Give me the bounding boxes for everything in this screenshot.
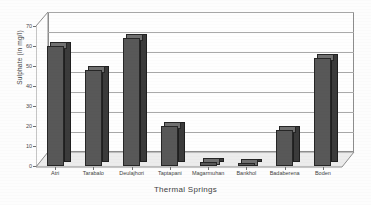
bar-front-face: [161, 126, 178, 166]
x-tick-mark: [132, 167, 133, 170]
x-tick-mark: [55, 167, 56, 170]
bar-front-face: [85, 70, 102, 166]
bar-bankhol: [238, 163, 255, 166]
bar-magarmuhan: [200, 162, 217, 166]
x-axis-title: Thermal Springs: [0, 185, 371, 194]
x-tick-mark: [323, 167, 324, 170]
y-tick-label: 70: [16, 23, 32, 29]
y-tick-mark: [33, 86, 36, 87]
gridline: [48, 52, 354, 53]
bar-taptapani: [161, 126, 178, 166]
y-tick-label: 30: [16, 103, 32, 109]
gridline: [48, 12, 354, 13]
y-tick-mark: [33, 46, 36, 47]
y-tick-label: 40: [16, 83, 32, 89]
y-tick-mark: [33, 106, 36, 107]
bar-front-face: [238, 163, 255, 166]
bar-front-face: [47, 46, 64, 166]
y-axis-title: Sulphate (in mg/l): [16, 3, 23, 113]
x-tick-mark: [285, 167, 286, 170]
bar-boden: [314, 58, 331, 166]
y-tick-label: 10: [16, 143, 32, 149]
y-tick-mark: [33, 126, 36, 127]
bar-deulajhori: [123, 38, 140, 166]
x-tick-mark: [170, 167, 171, 170]
bar-side-face: [331, 54, 338, 162]
x-tick-mark: [246, 167, 247, 170]
y-tick-label: 50: [16, 63, 32, 69]
bar-front-face: [314, 58, 331, 166]
bar-front-face: [200, 162, 217, 166]
bar-chart-figure: Sulphate (in mg/l) 010203040506070 AtriT…: [0, 0, 371, 205]
y-tick-mark: [33, 146, 36, 147]
bar-side-face: [64, 42, 71, 162]
y-tick-mark: [33, 66, 36, 67]
bar-atri: [47, 46, 64, 166]
gridline: [48, 32, 354, 33]
y-tick-mark: [33, 26, 36, 27]
y-tick-mark: [33, 166, 36, 167]
bar-side-face: [140, 34, 147, 162]
y-tick-label: 0: [16, 163, 32, 169]
y-tick-label: 60: [16, 43, 32, 49]
bar-side-face: [102, 66, 109, 162]
bar-badaberena: [276, 130, 293, 166]
x-tick-mark: [208, 167, 209, 170]
bar-front-face: [123, 38, 140, 166]
x-tick-mark: [93, 167, 94, 170]
bar-front-face: [276, 130, 293, 166]
plot-area: 010203040506070: [36, 12, 356, 167]
y-tick-label: 20: [16, 123, 32, 129]
bar-tarabalo: [85, 70, 102, 166]
x-tick-label: Boden: [293, 170, 353, 177]
